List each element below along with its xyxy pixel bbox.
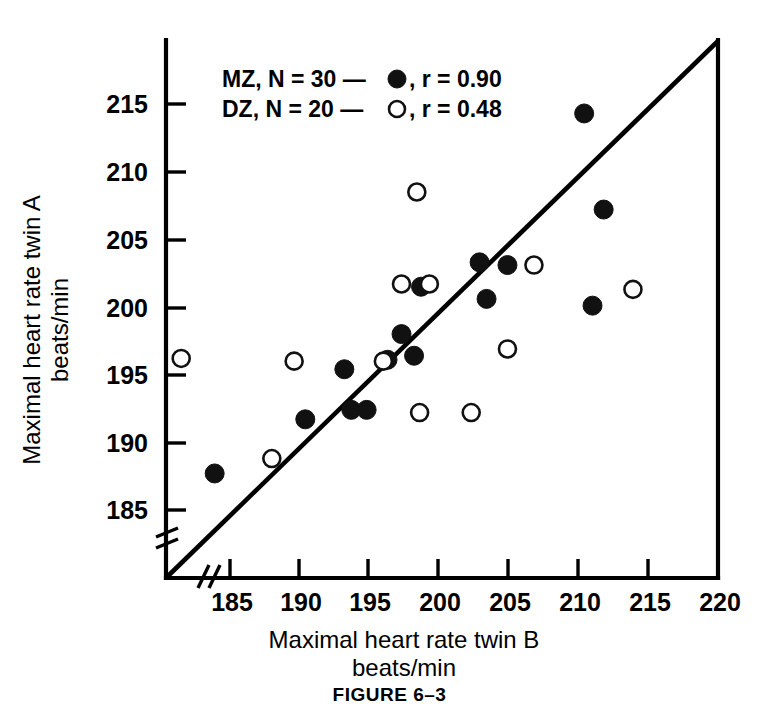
x-axis-ticks xyxy=(230,559,718,578)
data-point-mz xyxy=(583,296,602,315)
data-point-mz xyxy=(405,346,424,365)
y-tick-label-215: 215 xyxy=(106,90,148,118)
y-axis-title-line1: Maximal heart rate twin A xyxy=(18,195,45,464)
data-point-dz xyxy=(393,275,410,292)
x-tick-label-195: 195 xyxy=(349,588,391,616)
data-point-dz xyxy=(525,257,542,274)
figure-caption: FIGURE 6–3 xyxy=(0,684,779,706)
scatter-plot: 215 210 205 200 195 190 185 185 190 195 … xyxy=(0,0,779,724)
y-tick-label-190: 190 xyxy=(106,429,148,457)
x-tick-label-190: 190 xyxy=(280,588,322,616)
data-point-dz xyxy=(463,404,480,421)
x-tick-label-200: 200 xyxy=(419,588,461,616)
legend-dz-label-before: DZ, N = 20 — xyxy=(222,96,363,122)
x-axis-title-line2: beats/min xyxy=(352,654,456,681)
data-point-mz xyxy=(470,253,489,272)
data-point-mz xyxy=(335,360,354,379)
figure-container: 215 210 205 200 195 190 185 185 190 195 … xyxy=(0,0,779,724)
x-tick-label-210: 210 xyxy=(559,588,601,616)
data-point-dz xyxy=(408,183,425,200)
axis-titles: Maximal heart rate twin B beats/min Maxi… xyxy=(18,195,539,681)
data-point-mz xyxy=(477,289,496,308)
data-point-dz xyxy=(173,350,190,367)
data-points-layer xyxy=(173,104,642,483)
data-point-mz xyxy=(498,256,517,275)
y-tick-label-185: 185 xyxy=(106,496,148,524)
data-point-dz xyxy=(499,340,516,357)
y-tick-label-205: 205 xyxy=(106,226,148,254)
legend-marker-open-circle-icon xyxy=(389,101,405,117)
x-tick-label-205: 205 xyxy=(489,588,531,616)
series-mz xyxy=(205,104,613,483)
data-point-dz xyxy=(624,281,641,298)
data-point-mz xyxy=(594,200,613,219)
y-tick-label-210: 210 xyxy=(106,158,148,186)
y-tick-labels: 215 210 205 200 195 190 185 xyxy=(106,90,148,524)
data-point-mz xyxy=(575,104,594,123)
x-tick-label-215: 215 xyxy=(629,588,671,616)
x-tick-label-220: 220 xyxy=(699,588,741,616)
y-tick-label-195: 195 xyxy=(106,361,148,389)
x-axis-title-line1: Maximal heart rate twin B xyxy=(269,626,540,653)
data-point-dz xyxy=(411,404,428,421)
y-axis-ticks xyxy=(166,104,186,510)
series-dz xyxy=(173,183,642,467)
data-point-dz xyxy=(421,275,438,292)
y-tick-label-200: 200 xyxy=(106,294,148,322)
data-point-dz xyxy=(263,450,280,467)
legend-marker-filled-circle-icon xyxy=(388,70,406,88)
legend-dz-label-after: , r = 0.48 xyxy=(409,96,502,122)
x-tick-label-185: 185 xyxy=(211,588,253,616)
legend-mz-label-before: MZ, N = 30 — xyxy=(222,66,366,92)
data-point-mz xyxy=(296,410,315,429)
data-point-mz xyxy=(205,464,224,483)
data-point-dz xyxy=(375,353,392,370)
data-point-mz xyxy=(392,325,411,344)
y-axis-title-line2: beats/min xyxy=(46,278,73,382)
x-tick-labels: 185 190 195 200 205 210 215 220 xyxy=(211,588,741,616)
data-point-mz xyxy=(357,400,376,419)
legend-mz-label-after: , r = 0.90 xyxy=(409,66,502,92)
legend: MZ, N = 30 — , r = 0.90 DZ, N = 20 — , r… xyxy=(222,66,502,122)
data-point-dz xyxy=(286,353,303,370)
